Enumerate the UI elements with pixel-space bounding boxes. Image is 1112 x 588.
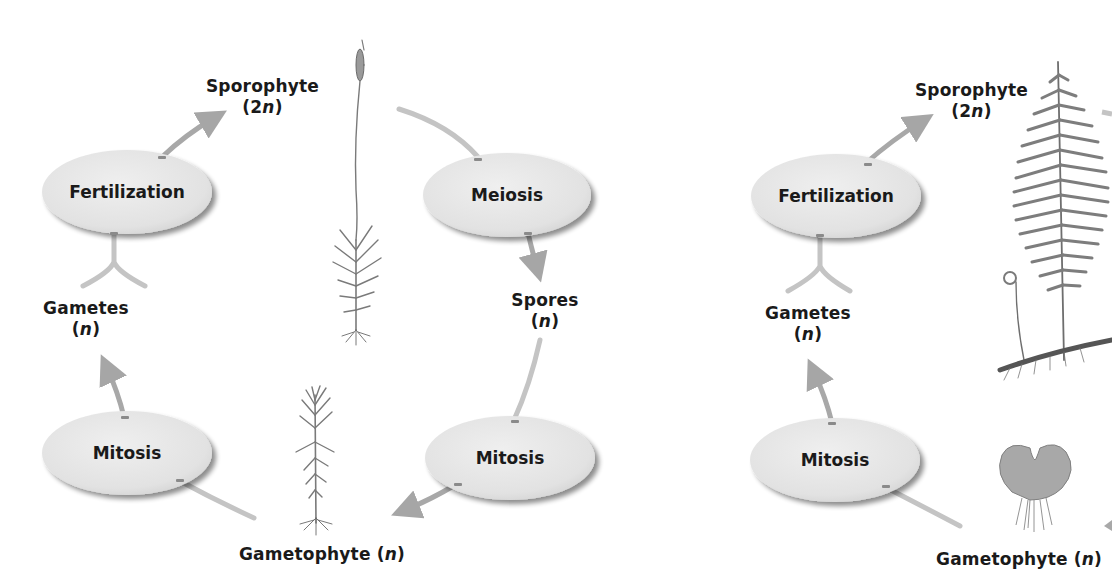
gametophyte-ploidy: n (385, 544, 397, 564)
spores-label: Spores (n) (505, 290, 585, 332)
sporophyte-ploidy: (2n) (205, 97, 320, 118)
fern-gametophyte-label: Gametophyte (n) (936, 549, 1112, 570)
arrow-fertilization-to-sporophyte (866, 122, 921, 163)
fern-gametophyte-text: Gametophyte (936, 549, 1068, 569)
life-cycle-diagrams: Fertilization Meiosis Mitosis Mitosis Sp… (0, 0, 1112, 588)
fern-gametophyte-prothallus-illustration (1000, 445, 1072, 532)
arrow-sporophyte-to-meiosis (399, 109, 478, 157)
gametes-ploidy: (n) (42, 319, 130, 340)
fern-gametes-label: Gametes (n) (764, 303, 852, 345)
fern-node-mitosis-label: Mitosis (801, 450, 870, 470)
fern-sporophyte-text: Sporophyte (914, 80, 1029, 101)
gametophyte-label: Gametophyte (n) (232, 544, 412, 565)
arrow-gametophyte-to-mitosis (180, 481, 254, 518)
gametophyte-text: Gametophyte (239, 544, 371, 564)
fern-node-fertilization-label: Fertilization (778, 186, 894, 206)
gametes-text: Gametes (42, 298, 130, 319)
moss-gametophyte-illustration (296, 386, 334, 535)
sporophyte-label: Sporophyte (2n) (205, 76, 320, 118)
node-mitosis-left-label: Mitosis (93, 443, 162, 463)
spores-text: Spores (505, 290, 585, 311)
fern-sporophyte-ploidy: (2n) (914, 101, 1029, 122)
arrow-meiosis-to-spores (528, 233, 537, 268)
spores-ploidy: (n) (505, 311, 585, 332)
arrow-gametes-to-fertilization (83, 230, 145, 286)
arrow-gametes-to-fertilization (788, 234, 850, 291)
arrow-spores-to-mitosis (514, 340, 540, 420)
arrow-gametophyte-to-mitosis (885, 487, 960, 526)
arrow-into-gametophyte-partial (1104, 520, 1112, 531)
arrow-mitosis-to-gametes (814, 372, 832, 423)
fern-gametes-ploidy: (n) (764, 324, 852, 345)
fern-gametophyte-ploidy: n (1082, 549, 1094, 569)
arrow-mitosis-to-gametes (107, 368, 124, 417)
node-meiosis-label: Meiosis (471, 185, 543, 205)
fern-sporophyte-label: Sporophyte (2n) (914, 80, 1029, 122)
arrow-sporophyte-to-meiosis-partial (1102, 112, 1112, 114)
node-mitosis-right-label: Mitosis (476, 448, 545, 468)
node-fertilization-label: Fertilization (69, 182, 185, 202)
gametes-label: Gametes (n) (42, 298, 130, 340)
arrow-mitosis-to-gametophyte (405, 485, 455, 510)
arrow-fertilization-to-sporophyte (162, 118, 214, 157)
sporophyte-text: Sporophyte (205, 76, 320, 97)
moss-sporophyte-illustration (333, 40, 381, 345)
fern-gametes-text: Gametes (764, 303, 852, 324)
